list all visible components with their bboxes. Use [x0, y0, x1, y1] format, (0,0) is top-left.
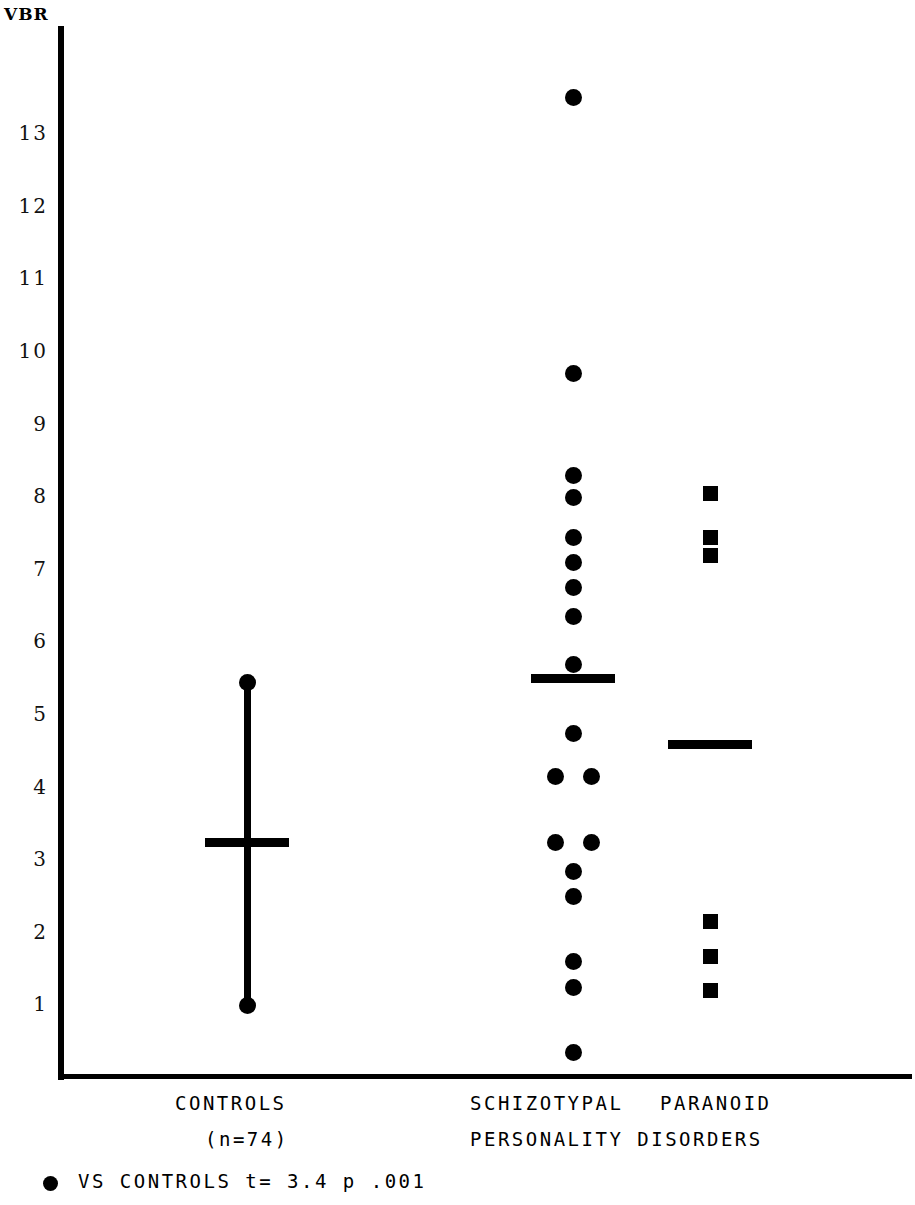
schizotypal-data-point — [547, 834, 564, 851]
schizotypal-data-point — [565, 89, 582, 106]
group-caption-personality-disorders: PERSONALITY DISORDERS — [470, 1128, 763, 1150]
y-tick-6: 6 — [8, 629, 48, 653]
scatter-plot-canvas — [0, 0, 915, 1205]
controls-range-min-dot — [239, 997, 256, 1014]
y-tick-7: 7 — [8, 557, 48, 581]
y-tick-8: 8 — [8, 484, 48, 508]
controls-mean-bar — [205, 838, 289, 847]
footnote-significance: VS CONTROLS t= 3.4 p .001 — [78, 1170, 426, 1192]
y-tick-4: 4 — [8, 775, 48, 799]
paranoid-data-point — [703, 530, 718, 545]
x-axis-line — [60, 1074, 912, 1079]
schizotypal-data-point — [547, 768, 564, 785]
y-axis-line — [58, 26, 64, 1080]
schizotypal-data-point — [565, 979, 582, 996]
schizotypal-data-point — [583, 834, 600, 851]
y-tick-11: 11 — [8, 266, 48, 290]
group-label-controls: CONTROLS — [175, 1092, 287, 1114]
y-tick-5: 5 — [8, 702, 48, 726]
schizotypal-data-point — [565, 656, 582, 673]
group-label-paranoid: PARANOID — [660, 1092, 772, 1114]
paranoid-data-point — [703, 548, 718, 563]
y-tick-10: 10 — [8, 339, 48, 363]
y-tick-1: 1 — [8, 992, 48, 1016]
group-sublabel-controls-n: (n=74) — [205, 1128, 289, 1150]
y-tick-9: 9 — [8, 412, 48, 436]
y-tick-12: 12 — [8, 194, 48, 218]
schizotypal-data-point — [565, 489, 582, 506]
schizotypal-mean-bar — [531, 674, 615, 683]
paranoid-data-point — [703, 486, 718, 501]
schizotypal-data-point — [565, 467, 582, 484]
schizotypal-data-point — [565, 725, 582, 742]
schizotypal-data-point — [565, 888, 582, 905]
schizotypal-data-point — [583, 768, 600, 785]
y-tick-13: 13 — [8, 121, 48, 145]
schizotypal-data-point — [565, 863, 582, 880]
y-tick-2: 2 — [8, 920, 48, 944]
paranoid-data-point — [703, 983, 718, 998]
group-label-schizotypal: SCHIZOTYPAL — [470, 1092, 623, 1114]
paranoid-data-point — [703, 949, 718, 964]
schizotypal-data-point — [565, 365, 582, 382]
y-axis-title: VBR — [4, 4, 49, 24]
schizotypal-data-point — [565, 579, 582, 596]
legend-circle-icon — [43, 1176, 58, 1191]
schizotypal-data-point — [565, 529, 582, 546]
schizotypal-data-point — [565, 953, 582, 970]
schizotypal-data-point — [565, 608, 582, 625]
controls-range-max-dot — [239, 674, 256, 691]
paranoid-data-point — [703, 914, 718, 929]
y-tick-3: 3 — [8, 847, 48, 871]
schizotypal-data-point — [565, 554, 582, 571]
schizotypal-data-point — [565, 1044, 582, 1061]
paranoid-mean-bar — [668, 740, 752, 749]
